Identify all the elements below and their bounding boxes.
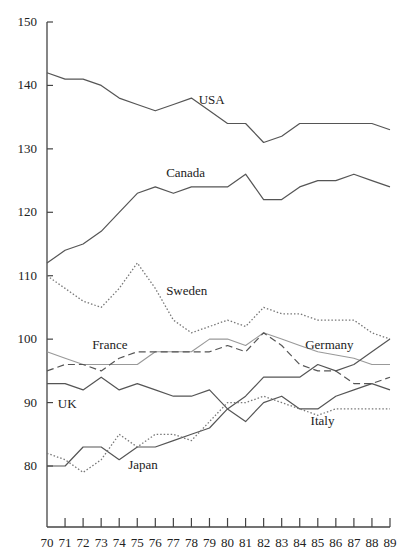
x-tick-label: 89 <box>384 535 397 550</box>
y-tick-label: 150 <box>18 14 38 29</box>
series-line-canada <box>47 174 390 263</box>
y-tick-label: 130 <box>18 141 38 156</box>
series-label-usa: USA <box>199 92 226 107</box>
x-tick-label: 70 <box>41 535 54 550</box>
series-line-uk <box>47 377 390 421</box>
x-tick-label: 74 <box>113 535 127 550</box>
x-tick-label: 71 <box>59 535 72 550</box>
y-tick-label: 110 <box>18 268 37 283</box>
x-tick-label: 79 <box>203 535 216 550</box>
y-tick-label: 80 <box>24 458 37 473</box>
x-tick-label: 73 <box>95 535 108 550</box>
series-label-italy: Italy <box>311 413 335 428</box>
line-chart: 1501401301201101009080707172737475767778… <box>0 0 416 554</box>
x-tick-label: 78 <box>185 535 198 550</box>
x-tick-label: 80 <box>221 535 234 550</box>
x-tick-label: 88 <box>365 535 378 550</box>
y-tick-label: 90 <box>24 395 37 410</box>
series-label-sweden: Sweden <box>166 283 208 298</box>
x-tick-label: 86 <box>329 535 343 550</box>
x-tick-label: 83 <box>275 535 288 550</box>
y-tick-label: 120 <box>18 204 38 219</box>
y-tick-label: 100 <box>18 331 38 346</box>
x-tick-label: 77 <box>167 535 181 550</box>
x-tick-label: 84 <box>293 535 307 550</box>
series-line-italy <box>47 396 390 472</box>
series-label-uk: UK <box>58 396 77 411</box>
series-label-germany: Germany <box>305 337 354 352</box>
series-labels: USACanadaSwedenGermanyFranceUKJapanItaly <box>58 92 354 471</box>
x-tick-label: 82 <box>257 535 270 550</box>
x-tick-label: 72 <box>77 535 90 550</box>
series-line-japan <box>47 339 390 466</box>
series-lines <box>47 73 390 473</box>
x-tick-label: 81 <box>239 535 252 550</box>
x-tick-label: 75 <box>131 535 144 550</box>
x-tick-label: 76 <box>149 535 163 550</box>
series-label-canada: Canada <box>166 165 205 180</box>
series-line-usa <box>47 73 390 143</box>
series-label-france: France <box>92 337 128 352</box>
series-line-sweden <box>47 263 390 339</box>
series-label-japan: Japan <box>128 457 158 472</box>
x-tick-label: 87 <box>347 535 361 550</box>
x-tick-label: 85 <box>311 535 324 550</box>
y-tick-label: 140 <box>18 77 38 92</box>
